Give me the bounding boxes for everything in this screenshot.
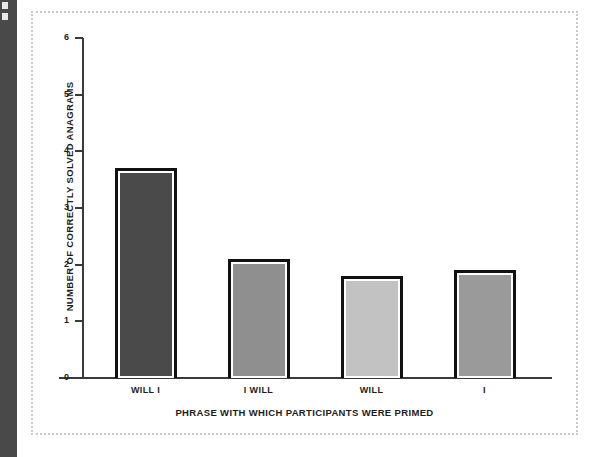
- scanned-page: NUMBER OF CORRECTLY SOLVED ANAGRAMS PHRA…: [0, 0, 597, 457]
- bar-fill: [120, 173, 172, 376]
- category-label: WILL: [315, 385, 428, 395]
- bar: [341, 276, 403, 378]
- y-tick-label-2: 2: [45, 259, 69, 269]
- binding-mark-lower: [2, 13, 8, 20]
- y-tick-label-3: 3: [45, 202, 69, 212]
- bar-fill: [233, 264, 285, 376]
- bar-chart: NUMBER OF CORRECTLY SOLVED ANAGRAMS PHRA…: [31, 11, 578, 435]
- y-tick-4: [75, 150, 83, 152]
- bar-fill: [459, 275, 511, 376]
- category-label: WILL I: [89, 385, 202, 395]
- bar: [454, 270, 516, 378]
- bar-inner-border: [118, 171, 174, 378]
- y-tick-6: [75, 37, 83, 39]
- bar: [115, 168, 177, 378]
- y-tick-5: [75, 94, 83, 96]
- y-tick-label-1: 1: [45, 315, 69, 325]
- bar-inner-border: [457, 273, 513, 378]
- bar-fill: [346, 281, 398, 376]
- bar: [228, 259, 290, 378]
- y-tick-label-4: 4: [45, 145, 69, 155]
- y-tick-label-5: 5: [45, 89, 69, 99]
- y-tick-label-6: 6: [45, 32, 69, 42]
- binding-mark-upper: [2, 2, 8, 9]
- page-binding-strip: [0, 0, 17, 457]
- y-tick-3: [75, 207, 83, 209]
- y-tick-2: [75, 264, 83, 266]
- bar-inner-border: [231, 262, 287, 378]
- bar-inner-border: [344, 279, 400, 378]
- y-tick-0: [75, 377, 83, 379]
- x-axis-title: PHRASE WITH WHICH PARTICIPANTS WERE PRIM…: [31, 407, 578, 418]
- y-tick-label-0: 0: [45, 372, 69, 382]
- y-tick-1: [75, 320, 83, 322]
- category-label: I WILL: [202, 385, 315, 395]
- category-label: I: [428, 385, 541, 395]
